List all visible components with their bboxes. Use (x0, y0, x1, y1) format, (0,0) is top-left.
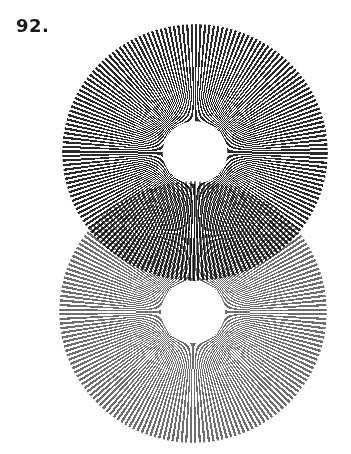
figure-number: 92. (16, 15, 49, 36)
upper-spoke-disc (62, 24, 328, 281)
